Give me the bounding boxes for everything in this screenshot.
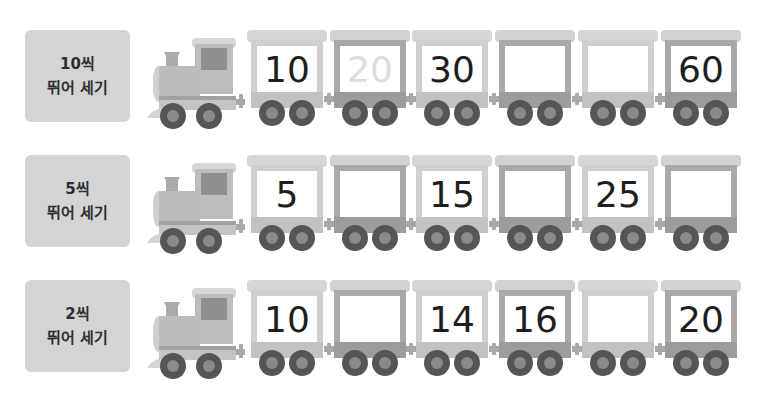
number-box: 60 xyxy=(671,46,731,92)
number-box: 25 xyxy=(588,171,648,217)
number-box: 20 xyxy=(671,296,731,342)
wheel-icon xyxy=(424,225,450,251)
train-car xyxy=(495,155,575,260)
train-engine xyxy=(145,30,245,135)
wheel-icon xyxy=(289,350,315,376)
coupler xyxy=(489,96,499,102)
wheel-icon xyxy=(424,100,450,126)
coupler xyxy=(655,346,665,352)
number-box: 5 xyxy=(257,171,317,217)
blank-number-box[interactable] xyxy=(505,171,565,217)
train-engine xyxy=(145,155,245,260)
wheel-icon xyxy=(424,350,450,376)
row-label: 2씩뛰어 세기 xyxy=(25,280,130,372)
coupler xyxy=(324,346,334,352)
wheel-icon xyxy=(620,100,646,126)
blank-number-box[interactable] xyxy=(671,171,731,217)
wheel-icon xyxy=(703,225,729,251)
number-box: 10 xyxy=(257,46,317,92)
wheel-icon xyxy=(372,350,398,376)
wheel-icon xyxy=(537,350,563,376)
train-car: 20 xyxy=(661,280,741,385)
row-label: 5씩뛰어 세기 xyxy=(25,155,130,247)
wheel-icon xyxy=(590,100,616,126)
blank-number-box[interactable] xyxy=(340,171,400,217)
wheel-icon xyxy=(289,100,315,126)
wheel-icon xyxy=(342,100,368,126)
coupler xyxy=(324,221,334,227)
locomotive-icon xyxy=(145,155,245,260)
row-label-text: 뛰어 세기 xyxy=(47,201,108,225)
wheel-icon xyxy=(259,225,285,251)
blank-number-box[interactable] xyxy=(505,46,565,92)
wheel-icon xyxy=(620,225,646,251)
coupler xyxy=(324,96,334,102)
wheel-icon xyxy=(259,100,285,126)
row-label-step: 5씩 xyxy=(65,177,89,201)
train-car xyxy=(330,155,410,260)
wheel-icon xyxy=(537,100,563,126)
wheel-icon xyxy=(454,350,480,376)
wheel-icon xyxy=(673,350,699,376)
coupler xyxy=(406,346,416,352)
number-box: 20 xyxy=(340,46,400,92)
number-box: 16 xyxy=(505,296,565,342)
coupler xyxy=(406,221,416,227)
blank-number-box[interactable] xyxy=(340,296,400,342)
train-car: 15 xyxy=(412,155,492,260)
wheel-icon xyxy=(507,100,533,126)
coupler xyxy=(655,221,665,227)
train-car: 10 xyxy=(247,30,327,135)
train-car xyxy=(495,30,575,135)
row-label: 10씩뛰어 세기 xyxy=(25,30,130,122)
wheel-icon xyxy=(703,100,729,126)
train-car: 25 xyxy=(578,155,658,260)
number-box: 10 xyxy=(257,296,317,342)
coupler xyxy=(572,346,582,352)
coupler xyxy=(572,96,582,102)
wheel-icon xyxy=(590,350,616,376)
wheel-icon xyxy=(590,225,616,251)
wheel-icon xyxy=(372,225,398,251)
number-box: 14 xyxy=(422,296,482,342)
train-car: 20 xyxy=(330,30,410,135)
train-car: 5 xyxy=(247,155,327,260)
row-label-text: 뛰어 세기 xyxy=(47,326,108,350)
train-car: 16 xyxy=(495,280,575,385)
train-car: 10 xyxy=(247,280,327,385)
coupler xyxy=(655,96,665,102)
coupler xyxy=(572,221,582,227)
wheel-icon xyxy=(372,100,398,126)
wheel-icon xyxy=(703,350,729,376)
wheel-icon xyxy=(673,225,699,251)
coupler xyxy=(489,221,499,227)
train-car xyxy=(578,30,658,135)
wheel-icon xyxy=(507,350,533,376)
wheel-icon xyxy=(342,225,368,251)
train-car: 30 xyxy=(412,30,492,135)
blank-number-box[interactable] xyxy=(588,296,648,342)
coupler xyxy=(406,96,416,102)
row-label-text: 뛰어 세기 xyxy=(47,76,108,100)
wheel-icon xyxy=(673,100,699,126)
wheel-icon xyxy=(454,100,480,126)
counting-row: 2씩뛰어 세기 10141620 xyxy=(0,280,759,390)
wheel-icon xyxy=(289,225,315,251)
wheel-icon xyxy=(342,350,368,376)
locomotive-icon xyxy=(145,280,245,385)
blank-number-box[interactable] xyxy=(588,46,648,92)
train-car xyxy=(578,280,658,385)
counting-row: 5씩뛰어 세기 51525 xyxy=(0,155,759,265)
number-box: 15 xyxy=(422,171,482,217)
number-box: 30 xyxy=(422,46,482,92)
wheel-icon xyxy=(537,225,563,251)
coupler xyxy=(489,346,499,352)
row-label-step: 2씩 xyxy=(65,302,89,326)
wheel-icon xyxy=(454,225,480,251)
wheel-icon xyxy=(259,350,285,376)
train-car: 14 xyxy=(412,280,492,385)
train-car xyxy=(330,280,410,385)
locomotive-icon xyxy=(145,30,245,135)
wheel-icon xyxy=(507,225,533,251)
row-label-step: 10씩 xyxy=(60,52,95,76)
